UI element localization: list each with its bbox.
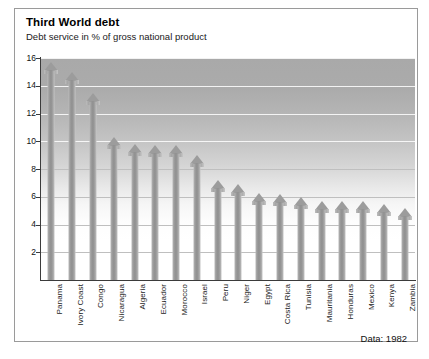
chart-subtitle: Debt service in % of gross national prod… xyxy=(26,31,207,42)
x-label-mexico: Mexico xyxy=(367,284,376,310)
arrow-shaft xyxy=(89,102,96,280)
gridline-14 xyxy=(41,86,415,87)
x-label-costa-rica: Costa Rica xyxy=(283,284,292,324)
y-tick-label-text: 6 xyxy=(20,192,36,201)
y-tick-mark-6 xyxy=(36,197,40,198)
x-label-ecuador: Ecuador xyxy=(159,284,168,315)
chart-figure: Third World debt Debt service in % of gr… xyxy=(0,0,429,359)
y-tick-mark-14 xyxy=(36,86,40,87)
y-tick-label-8: 8 xyxy=(14,165,36,174)
bar-kenya xyxy=(377,204,391,280)
x-label-panama: Panama xyxy=(55,284,64,314)
x-label-algeria: Algeria xyxy=(138,284,147,310)
y-tick-label-10: 10 xyxy=(14,137,36,146)
arrow-shaft xyxy=(110,146,117,280)
bar-mauritania xyxy=(315,201,329,280)
bar-peru xyxy=(211,180,225,280)
bar-egypt xyxy=(252,193,266,280)
bar-morocco xyxy=(169,145,183,280)
arrow-shaft xyxy=(256,202,263,280)
x-label-nicaragua: Nicaragua xyxy=(117,284,126,321)
arrow-shaft xyxy=(339,210,346,280)
data-source-note: Data: 1982 xyxy=(361,333,407,344)
y-tick-mark-8 xyxy=(36,169,40,170)
x-label-morocco: Morocco xyxy=(180,284,189,315)
chart-title: Third World debt xyxy=(26,16,119,28)
gridline-16 xyxy=(41,58,415,59)
y-tick-label-text: 8 xyxy=(20,165,36,174)
arrow-shaft xyxy=(360,210,367,280)
x-label-egypt: Egypt xyxy=(263,284,272,305)
x-label-niger: Niger xyxy=(242,284,251,304)
x-label-israel: Israel xyxy=(200,284,209,304)
y-tick-mark-12 xyxy=(36,114,40,115)
y-tick-label-text: 2 xyxy=(20,248,36,257)
arrow-shaft xyxy=(297,206,304,280)
arrow-shaft xyxy=(152,154,159,280)
y-tick-mark-16 xyxy=(36,58,40,59)
y-tick-mark-4 xyxy=(36,225,40,226)
x-label-congo: Congo xyxy=(96,284,105,308)
x-label-kenya: Kenya xyxy=(387,284,396,307)
y-tick-label-text: 12 xyxy=(20,109,36,118)
x-label-honduras: Honduras xyxy=(346,284,355,320)
arrow-shaft xyxy=(380,213,387,280)
bar-costa-rica xyxy=(273,194,287,280)
bar-algeria xyxy=(128,144,142,280)
y-axis-line xyxy=(40,57,41,281)
bar-honduras xyxy=(335,201,349,280)
y-tick-label-16: 16 xyxy=(14,54,36,63)
x-axis-line xyxy=(40,280,416,281)
x-label-mauritania: Mauritania xyxy=(325,284,334,322)
arrow-shaft xyxy=(276,203,283,280)
y-tick-label-text: 10 xyxy=(20,137,36,146)
y-tick-mark-2 xyxy=(36,252,40,253)
bar-zambia xyxy=(398,208,412,280)
arrow-shaft xyxy=(48,71,55,280)
y-tick-label-6: 6 xyxy=(14,192,36,201)
bar-mexico xyxy=(356,201,370,280)
bar-panama xyxy=(44,62,58,280)
arrow-shaft xyxy=(131,153,138,280)
x-label-tunisia: Tunisia xyxy=(304,284,313,310)
bar-congo xyxy=(86,93,100,280)
x-label-peru: Peru xyxy=(221,284,230,301)
bar-tunisia xyxy=(294,197,308,280)
y-tick-label-2: 2 xyxy=(14,248,36,257)
arrow-shaft xyxy=(401,217,408,280)
arrow-shaft xyxy=(69,81,76,280)
arrow-shaft xyxy=(173,154,180,280)
y-tick-label-14: 14 xyxy=(14,81,36,90)
bar-ivory-coast xyxy=(65,72,79,280)
arrow-shaft xyxy=(235,193,242,280)
x-label-zambia: Zambia xyxy=(408,284,417,311)
y-tick-label-text: 14 xyxy=(20,81,36,90)
y-tick-label-text: 16 xyxy=(20,54,36,63)
bar-israel xyxy=(190,155,204,280)
y-tick-label-text: 4 xyxy=(20,220,36,229)
plot-area xyxy=(41,58,415,280)
bar-ecuador xyxy=(148,145,162,280)
arrow-shaft xyxy=(318,210,325,280)
y-tick-label-12: 12 xyxy=(14,109,36,118)
x-label-ivory-coast: Ivory Coast xyxy=(76,284,85,326)
arrow-shaft xyxy=(214,189,221,280)
y-tick-mark-10 xyxy=(36,141,40,142)
bar-nicaragua xyxy=(107,137,121,280)
arrow-shaft xyxy=(193,164,200,280)
y-tick-label-4: 4 xyxy=(14,220,36,229)
bar-niger xyxy=(231,184,245,280)
